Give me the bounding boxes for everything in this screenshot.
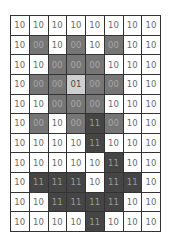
grid-cell: 10	[49, 134, 67, 153]
grid-cell: 10	[49, 212, 67, 231]
grid-cell: 10	[49, 153, 67, 172]
grid-cell: 10	[124, 16, 142, 35]
grid-cell: 10	[67, 212, 85, 231]
grid-cell: 00	[105, 75, 123, 94]
grid-cell: 00	[49, 55, 67, 74]
grid-cell: 10	[105, 212, 123, 231]
grid-cell: 10	[30, 134, 48, 153]
grid-cell: 10	[124, 193, 142, 212]
grid-cell: 10	[105, 55, 123, 74]
grid-cell: 11	[67, 173, 85, 192]
grid-cell: 10	[124, 212, 142, 231]
grid-cell: 10	[30, 16, 48, 35]
grid-cell: 11	[49, 173, 67, 192]
grid-cell: 10	[30, 95, 48, 114]
grid-cell: 11	[86, 114, 104, 133]
grid-cell: 00	[105, 36, 123, 55]
grid-cell: 11	[124, 173, 142, 192]
grid-cell: 10	[142, 134, 160, 153]
grid-cell: 00	[30, 75, 48, 94]
grid-cell: 11	[105, 193, 123, 212]
grid-cell: 00	[86, 95, 104, 114]
grid-cell: 11	[86, 212, 104, 231]
grid-cell: 10	[86, 16, 104, 35]
grid-cell: 10	[11, 153, 29, 172]
grid-cell: 11	[105, 173, 123, 192]
grid-cell: 00	[49, 95, 67, 114]
grid-cell: 10	[142, 153, 160, 172]
grid-cell: 10	[142, 173, 160, 192]
grid-cell: 10	[30, 193, 48, 212]
grid-cell: 10	[11, 16, 29, 35]
grid-cell: 10	[11, 173, 29, 192]
grid-cell: 10	[67, 16, 85, 35]
grid-cell: 10	[105, 16, 123, 35]
grid-cell: 10	[11, 114, 29, 133]
grid-cell: 10	[142, 193, 160, 212]
grid-cell: 00	[67, 95, 85, 114]
grid-cell: 10	[11, 212, 29, 231]
grid-cell: 10	[124, 114, 142, 133]
grid-cell: 10	[142, 95, 160, 114]
grid-cell: 00	[67, 114, 85, 133]
grid-cell: 10	[124, 36, 142, 55]
grid-cell: 10	[142, 114, 160, 133]
grid-cell: 10	[142, 55, 160, 74]
grid-cell: 10	[30, 153, 48, 172]
grid-cell: 11	[86, 193, 104, 212]
grid-cell: 00	[49, 75, 67, 94]
grid-cell: 10	[11, 36, 29, 55]
grid-cell: 00	[67, 55, 85, 74]
grid-cell: 10	[49, 36, 67, 55]
grid-cell: 10	[142, 16, 160, 35]
grid-cell: 10	[142, 75, 160, 94]
grid-cell: 00	[105, 114, 123, 133]
grid-cell: 10	[142, 212, 160, 231]
grid-cell: 10	[67, 153, 85, 172]
grid-cell: 11	[86, 134, 104, 153]
grid-cell: 10	[11, 75, 29, 94]
grid-cell: 01	[67, 75, 85, 94]
grid-cell: 10	[86, 36, 104, 55]
grid-cell: 10	[105, 95, 123, 114]
grid-cell: 10	[124, 55, 142, 74]
grid-cell: 11	[105, 153, 123, 172]
grid-cell: 10	[105, 134, 123, 153]
grid-cell: 10	[142, 36, 160, 55]
grid-cell: 10	[11, 193, 29, 212]
grid-cell: 10	[11, 55, 29, 74]
grid-cell: 00	[86, 55, 104, 74]
grid-cell: 11	[67, 193, 85, 212]
grid-cell: 10	[67, 134, 85, 153]
grid-cell: 00	[30, 36, 48, 55]
grid-cell: 10	[124, 95, 142, 114]
grid-cell: 10	[11, 134, 29, 153]
grid-cell: 10	[86, 153, 104, 172]
grid-cell: 11	[30, 173, 48, 192]
binary-code-grid: 1010101010101010100010001000101010100000…	[10, 15, 161, 232]
grid-cell: 10	[86, 173, 104, 192]
grid-cell: 10	[49, 16, 67, 35]
grid-cell: 00	[86, 75, 104, 94]
grid-cell: 10	[11, 95, 29, 114]
grid-cell: 10	[124, 153, 142, 172]
grid-cell: 11	[49, 193, 67, 212]
grid-cell: 10	[124, 75, 142, 94]
grid-cell: 00	[30, 114, 48, 133]
grid-cell: 10	[30, 55, 48, 74]
grid-cell: 10	[30, 212, 48, 231]
grid-cell: 10	[49, 114, 67, 133]
grid-cell: 10	[124, 134, 142, 153]
grid-cell: 00	[67, 36, 85, 55]
